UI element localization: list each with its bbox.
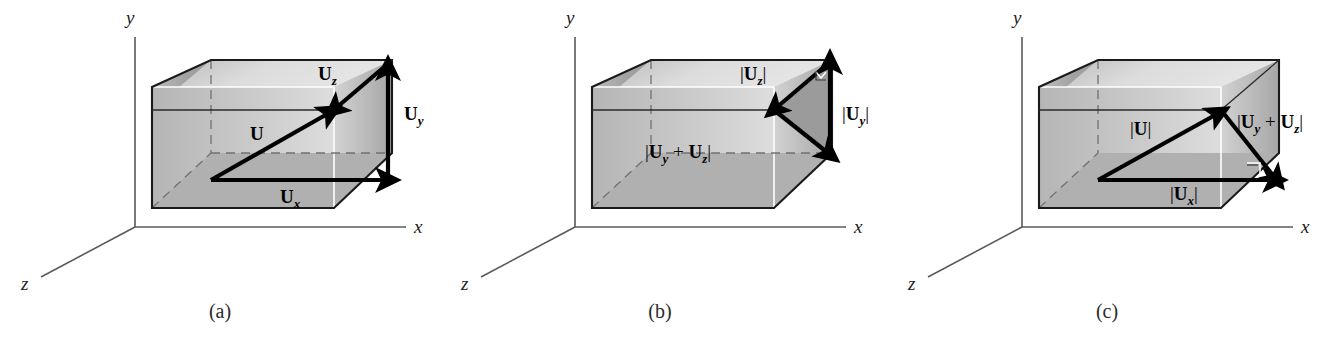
box-a (152, 60, 392, 208)
magnitude-uy-label: |Uy| (842, 103, 869, 128)
panel-c: y x z (887, 0, 1334, 339)
panel-a-caption: (a) (209, 300, 231, 323)
box-c (1039, 60, 1279, 208)
panel-a: y x z (0, 0, 447, 339)
y-axis-label: y (124, 7, 135, 28)
z-axis-label: z (20, 273, 29, 294)
y-axis-label: y (1011, 7, 1022, 28)
box-b (592, 60, 832, 208)
x-axis-label: x (413, 216, 423, 237)
y-axis-label: y (564, 7, 575, 28)
z-axis-label: z (460, 273, 469, 294)
z-axis (481, 227, 575, 277)
z-axis-label: z (907, 273, 916, 294)
z-axis (928, 227, 1022, 277)
panel-b-caption: (b) (648, 300, 671, 323)
x-axis-label: x (1300, 216, 1310, 237)
panel-b: y x z (440, 0, 887, 339)
vector-u-label: U (250, 123, 264, 144)
z-axis (41, 227, 135, 277)
magnitude-u-label: |U| (1130, 118, 1151, 139)
vector-uy-label: Uy (404, 103, 424, 128)
panel-c-caption: (c) (1096, 300, 1118, 323)
x-axis-label: x (853, 216, 863, 237)
figure-vector-components: y x z (0, 0, 1337, 339)
